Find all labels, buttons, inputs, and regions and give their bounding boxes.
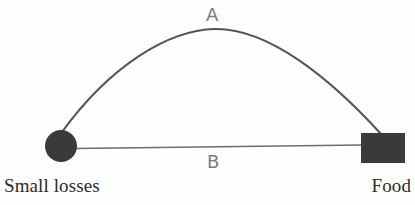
node-label-small-losses: Small losses [4,176,100,195]
edge-path-a [62,29,381,134]
node-small-losses-circle [45,130,77,162]
diagram-canvas: Small losses Food A B [0,0,415,205]
edge-label-a: A [206,6,218,24]
edge-path-b [75,145,362,149]
node-food-rect [361,133,405,163]
node-label-food: Food [372,176,411,195]
edge-label-b: B [207,153,219,171]
